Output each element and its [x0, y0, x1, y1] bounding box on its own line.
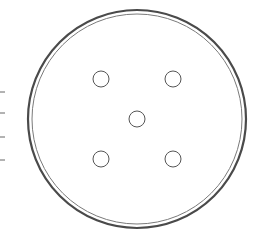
inner-ring [32, 14, 242, 224]
plate [28, 10, 246, 228]
hole [93, 71, 109, 87]
hole [165, 71, 181, 87]
hole [93, 151, 109, 167]
hole [129, 111, 145, 127]
holes-group [93, 71, 181, 167]
circular-plate-diagram [0, 0, 256, 236]
outer-ring [28, 10, 246, 228]
tick-marks-group [0, 92, 5, 160]
hole [165, 151, 181, 167]
